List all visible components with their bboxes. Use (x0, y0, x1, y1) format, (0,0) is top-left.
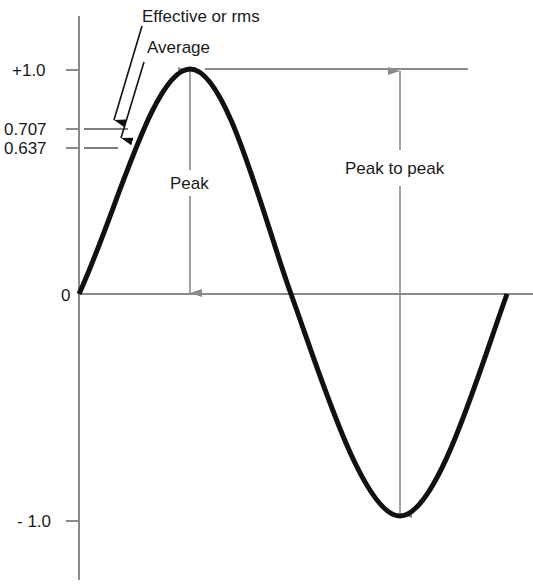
y-tick-label-rms: 0.707 (4, 121, 47, 138)
label-peak-to-peak: Peak to peak (345, 160, 444, 177)
y-tick-label-zero: 0 (61, 287, 70, 304)
label-average: Average (147, 39, 210, 56)
y-tick-label-avg: 0.637 (4, 140, 47, 157)
label-effective-rms: Effective or rms (142, 8, 260, 25)
label-peak: Peak (170, 175, 209, 192)
sine-wave-diagram (0, 0, 533, 588)
effective-pointer-arrow (114, 26, 142, 120)
sine-wave (79, 69, 507, 516)
average-pointer-arrow (121, 62, 144, 138)
y-tick-label-pos-one: +1.0 (12, 62, 46, 79)
y-tick-label-neg-one: - 1.0 (17, 513, 51, 530)
